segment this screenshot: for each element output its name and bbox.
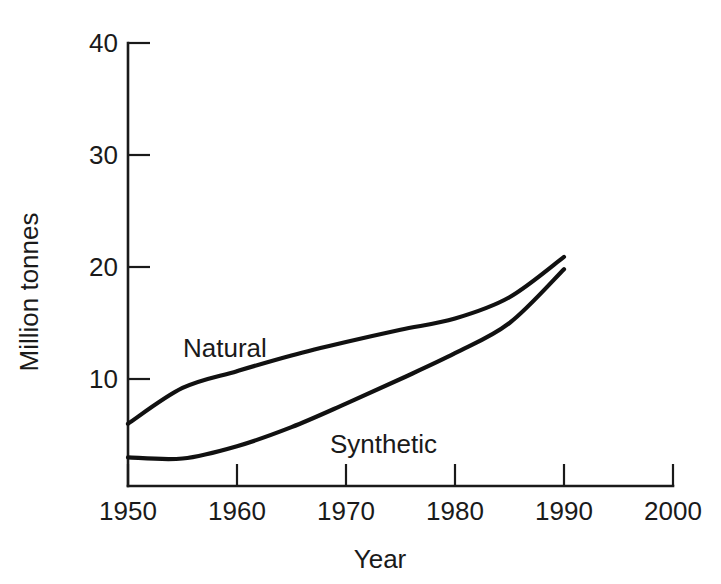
x-tick-label-1950: 1950 — [99, 496, 157, 526]
chart-figure: 40 30 20 10 1950 1960 1970 1980 1990 200… — [0, 0, 721, 584]
y-tick-label-30: 30 — [89, 140, 118, 170]
x-axis-title: Year — [354, 544, 407, 574]
y-axis-ticks — [128, 43, 150, 379]
series-label-synthetic: Synthetic — [330, 429, 437, 459]
y-tick-label-10: 10 — [89, 364, 118, 394]
x-tick-label-1980: 1980 — [426, 496, 484, 526]
y-tick-label-20: 20 — [89, 252, 118, 282]
y-tick-label-40: 40 — [89, 28, 118, 58]
series-label-natural: Natural — [183, 333, 267, 363]
x-tick-label-1990: 1990 — [535, 496, 593, 526]
x-tick-label-1960: 1960 — [208, 496, 266, 526]
y-axis-title: Million tonnes — [14, 213, 44, 372]
x-tick-label-2000: 2000 — [644, 496, 702, 526]
x-axis-ticks — [128, 464, 673, 486]
line-chart-svg: 40 30 20 10 1950 1960 1970 1980 1990 200… — [0, 0, 721, 584]
x-tick-label-1970: 1970 — [317, 496, 375, 526]
